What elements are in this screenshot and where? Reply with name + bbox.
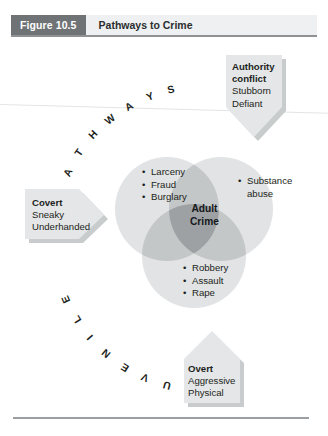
bullet-icon: •	[142, 166, 151, 179]
callout-authority-conflict: Authority conflict Stubborn Defiant	[224, 55, 288, 143]
list-item: •Robbery	[183, 262, 228, 275]
arc-juvenile-letter: N	[98, 345, 116, 363]
arc-pathways-letter: A	[121, 98, 138, 115]
arc-juvenile-letter: I	[81, 329, 99, 347]
list-item: •Burglary	[142, 191, 187, 204]
callout-overt: Overt Aggressive Physical	[178, 331, 248, 409]
arc-juvenile-letter: E	[58, 291, 75, 307]
figure-title: Pathways to Crime	[86, 15, 193, 35]
bullet-icon: •	[183, 287, 192, 300]
figure-footer-rule	[13, 417, 309, 419]
arc-juvenile-letter: U	[159, 377, 174, 393]
callout-overt-text: Overt Aggressive Physical	[188, 363, 235, 400]
list-item-continuation: abuse	[238, 188, 292, 201]
bullet-icon: •	[238, 175, 247, 188]
venn-label-covert-crimes: •Larceny •Fraud •Burglary	[142, 166, 187, 204]
arc-juvenile-letter: E	[116, 358, 133, 375]
venn-label-overt-crimes: •Robbery •Assault •Rape	[183, 262, 228, 300]
bullet-icon: •	[142, 191, 151, 204]
arc-pathways-letter: A	[59, 164, 76, 180]
bullet-icon: •	[142, 179, 151, 192]
list-item: •Assault	[183, 275, 228, 288]
callout-authority-text: Authority conflict Stubborn Defiant	[232, 61, 275, 110]
list-item: •Substance	[238, 175, 292, 188]
arc-pathways-letter: T	[71, 144, 88, 161]
arc-pathways-letter: H	[85, 126, 103, 144]
arc-pathways-letter: W	[101, 110, 118, 128]
figure-header: Figure 10.5 Pathways to Crime	[11, 15, 317, 37]
figure-number-badge: Figure 10.5	[11, 15, 86, 35]
arc-pathways-letter: Y	[142, 88, 158, 104]
bullet-icon: •	[183, 275, 192, 288]
figure-container: Figure 10.5 Pathways to Crime PATHWAYSJU…	[0, 0, 328, 436]
venn-center-label: Adult Crime	[190, 202, 219, 228]
callout-covert: Covert Sneaky Underhanded	[24, 189, 110, 245]
arc-juvenile-letter: L	[68, 311, 85, 328]
arc-juvenile-letter: V	[137, 369, 153, 386]
list-item: •Larceny	[142, 166, 187, 179]
venn-label-authority-crimes: •Substance abuse	[238, 175, 292, 200]
list-item: •Fraud	[142, 179, 187, 192]
bullet-icon: •	[183, 262, 192, 275]
list-item: •Rape	[183, 287, 228, 300]
callout-covert-text: Covert Sneaky Underhanded	[32, 197, 90, 234]
arc-pathways-letter: S	[164, 82, 179, 97]
